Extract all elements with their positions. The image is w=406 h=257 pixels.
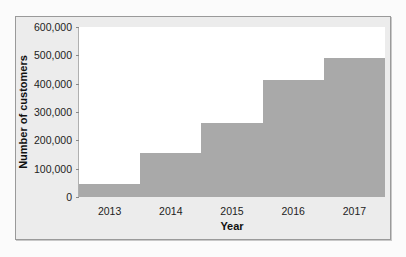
x-tick-label: 2016 — [282, 205, 305, 217]
y-tick-label: 500,000 — [34, 49, 72, 61]
y-tick-mark — [76, 84, 79, 85]
x-tick-label: 2013 — [98, 205, 121, 217]
y-tick-mark — [76, 27, 79, 28]
y-tick-label: 400,000 — [34, 78, 72, 90]
bar-2015 — [201, 123, 262, 197]
y-tick-mark — [76, 169, 79, 170]
y-tick-label: 0 — [66, 191, 72, 203]
bar-2013 — [79, 184, 140, 197]
bar-2016 — [263, 80, 324, 197]
x-tick-label: 2015 — [220, 205, 243, 217]
y-tick-label: 200,000 — [34, 134, 72, 146]
y-tick-mark — [76, 197, 79, 198]
x-axis-title: Year — [220, 220, 243, 232]
y-tick-label: 300,000 — [34, 106, 72, 118]
y-axis-title: Number of customers — [17, 55, 29, 169]
y-tick-mark — [76, 140, 79, 141]
bar-2014 — [140, 153, 201, 197]
x-tick-label: 2014 — [159, 205, 182, 217]
y-tick-mark — [76, 55, 79, 56]
y-tick-mark — [76, 112, 79, 113]
bar-2017 — [324, 58, 385, 197]
x-tick-label: 2017 — [343, 205, 366, 217]
y-tick-label: 100,000 — [34, 163, 72, 175]
y-tick-label: 600,000 — [34, 21, 72, 33]
